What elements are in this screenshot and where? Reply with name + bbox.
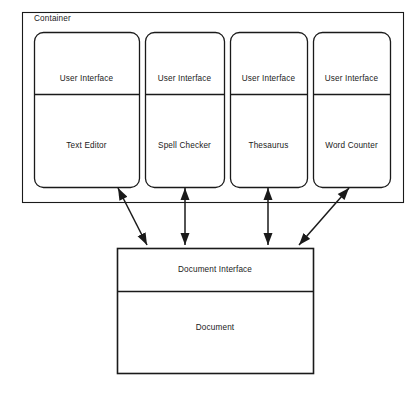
module-name-label-word-counter: Word Counter xyxy=(325,142,378,150)
module-name-label-text-editor: Text Editor xyxy=(66,142,106,150)
module-box-spell-checker[interactable] xyxy=(146,33,225,188)
document-interface-label: Document Interface xyxy=(178,266,252,274)
module-interface-label-word-counter: User Interface xyxy=(325,75,379,83)
module-interface-label-thesaurus: User Interface xyxy=(242,75,296,83)
container-label: Container xyxy=(34,15,71,23)
module-interface-label-spell-checker: User Interface xyxy=(158,75,212,83)
module-box-thesaurus[interactable] xyxy=(231,33,308,188)
module-name-label-spell-checker: Spell Checker xyxy=(158,142,211,150)
module-name-label-thesaurus: Thesaurus xyxy=(248,142,288,150)
architecture-diagram: ContainerUser InterfaceText EditorUser I… xyxy=(0,0,416,395)
diagram-shapes-layer xyxy=(0,0,416,395)
module-box-word-counter[interactable] xyxy=(314,33,391,188)
module-interface-label-text-editor: User Interface xyxy=(60,75,114,83)
module-box-text-editor[interactable] xyxy=(35,33,140,188)
document-label: Document xyxy=(196,324,235,332)
